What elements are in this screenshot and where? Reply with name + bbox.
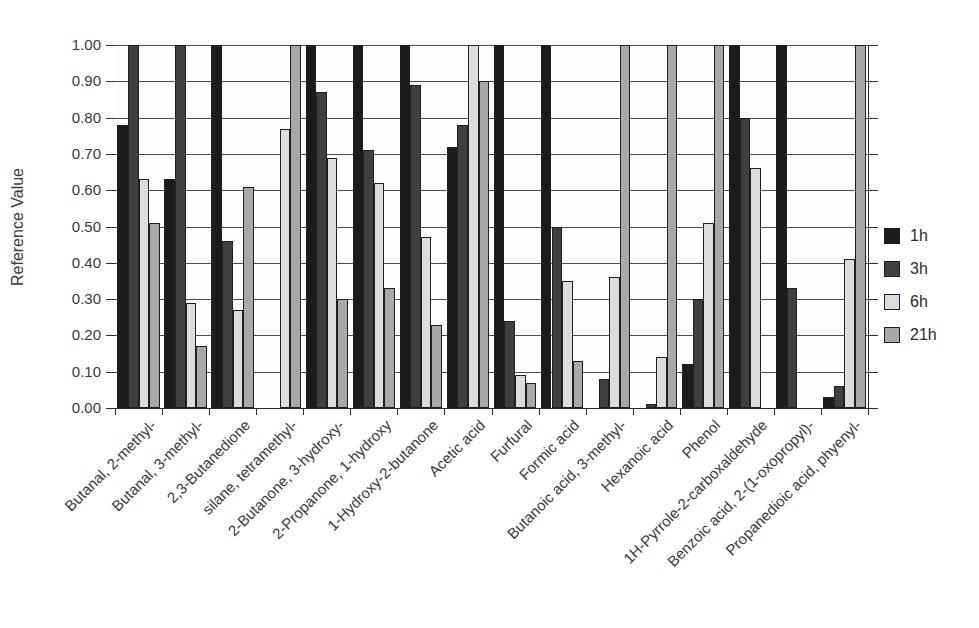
- y-tick-right: [869, 263, 878, 264]
- legend-label-1h: 1h: [910, 227, 928, 244]
- bar-6h-3: [233, 310, 244, 408]
- y-tick-label: 0.90: [53, 73, 101, 88]
- legend-item-6h: 6h: [884, 293, 976, 310]
- y-tick: [106, 190, 115, 191]
- bar-6h-5: [327, 158, 338, 408]
- bar-3h-3: [222, 241, 233, 408]
- bar-21h-8: [479, 81, 490, 408]
- bar-3h-12: [646, 404, 657, 408]
- bar-1h-5: [306, 45, 317, 408]
- bar-6h-7: [421, 237, 432, 408]
- bar-3h-5: [316, 92, 327, 408]
- x-tick: [209, 409, 210, 415]
- x-tick: [633, 409, 634, 415]
- bar-1h-13: [682, 364, 693, 408]
- x-category-label: Furfural: [354, 417, 535, 598]
- bar-6h-13: [703, 223, 714, 408]
- bar-6h-14: [750, 168, 761, 408]
- y-tick-right: [869, 118, 878, 119]
- legend-swatch-1h: [884, 228, 900, 244]
- y-tick-label: 0.20: [53, 327, 101, 342]
- bar-1h-7: [400, 45, 411, 408]
- gridline: [115, 154, 868, 155]
- bar-6h-4: [280, 129, 291, 409]
- x-tick: [539, 409, 540, 415]
- bar-1h-14: [729, 45, 740, 408]
- y-tick-right: [869, 299, 878, 300]
- y-tick: [106, 81, 115, 82]
- legend-item-21h: 21h: [884, 326, 976, 343]
- x-tick: [350, 409, 351, 415]
- plot-area: [115, 45, 868, 408]
- bar-21h-3: [243, 187, 254, 408]
- bar-3h-11: [599, 379, 610, 408]
- x-tick: [303, 409, 304, 415]
- bar-6h-11: [609, 277, 620, 408]
- y-tick: [106, 118, 115, 119]
- bar-1h-1: [117, 125, 128, 408]
- x-category-label: 2-Butanone, 3-hydroxy-: [166, 417, 347, 598]
- y-tick: [106, 263, 115, 264]
- bar-21h-16: [855, 45, 866, 408]
- bar-6h-8: [468, 45, 479, 408]
- x-tick: [586, 409, 587, 415]
- bar-6h-6: [374, 183, 385, 408]
- x-tick: [115, 409, 116, 415]
- y-tick-label: 0.10: [53, 364, 101, 379]
- x-category-label: Acetic acid: [307, 417, 488, 598]
- x-category-label: Butanoic acid, 3-methyl-: [448, 417, 629, 598]
- bar-3h-9: [504, 321, 515, 408]
- x-category-label: Formic acid: [401, 417, 582, 598]
- gridline: [115, 45, 868, 46]
- y-tick-label: 0.30: [53, 291, 101, 306]
- bar-6h-12: [656, 357, 667, 408]
- x-category-label: Hexanoic acid: [496, 417, 677, 598]
- bar-chart-figure: Reference Value 0.000.100.200.300.400.50…: [0, 0, 979, 628]
- y-tick: [106, 45, 115, 46]
- x-category-label: Propanedioic acid, phyenyl-: [684, 417, 865, 598]
- y-tick-label: 0.70: [53, 146, 101, 161]
- x-tick: [821, 409, 822, 415]
- bar-1h-8: [447, 147, 458, 408]
- bar-3h-13: [693, 299, 704, 408]
- bar-3h-6: [363, 150, 374, 408]
- bar-1h-3: [211, 45, 222, 408]
- x-category-label: Phenol: [543, 417, 724, 598]
- legend-label-6h: 6h: [910, 293, 928, 310]
- bar-1h-15: [776, 45, 787, 408]
- y-tick-label: 0.80: [53, 110, 101, 125]
- bar-3h-16: [834, 386, 845, 408]
- y-tick-right: [869, 81, 878, 82]
- bar-21h-11: [620, 45, 631, 408]
- bar-6h-2: [186, 303, 197, 408]
- legend-swatch-21h: [884, 327, 900, 343]
- bar-1h-2: [164, 179, 175, 408]
- y-tick-label: 0.50: [53, 219, 101, 234]
- x-tick: [256, 409, 257, 415]
- bar-21h-1: [149, 223, 160, 408]
- legend-label-3h: 3h: [910, 260, 928, 277]
- bar-1h-6: [353, 45, 364, 408]
- x-category-label: 1H-Pyrrole-2-carboxaldehyde: [590, 417, 771, 598]
- y-tick-right: [869, 408, 878, 409]
- bar-6h-10: [562, 281, 573, 408]
- bar-6h-1: [139, 179, 150, 408]
- bar-3h-8: [457, 125, 468, 408]
- y-tick: [106, 335, 115, 336]
- y-tick-right: [869, 227, 878, 228]
- x-tick: [492, 409, 493, 415]
- bar-3h-1: [128, 45, 139, 408]
- bar-6h-16: [844, 259, 855, 408]
- y-tick-right: [869, 190, 878, 191]
- bar-21h-4: [290, 45, 301, 408]
- x-category-label: 2-Propanone, 1-hydroxy: [213, 417, 394, 598]
- bar-21h-13: [714, 45, 725, 408]
- y-tick-right: [869, 45, 878, 46]
- x-tick: [444, 409, 445, 415]
- legend: 1h3h6h21h: [884, 227, 976, 359]
- bar-3h-15: [787, 288, 798, 408]
- x-tick: [680, 409, 681, 415]
- legend-swatch-3h: [884, 261, 900, 277]
- x-category-label: 1-Hydroxy-2-butanone: [260, 417, 441, 598]
- bar-21h-9: [526, 383, 537, 408]
